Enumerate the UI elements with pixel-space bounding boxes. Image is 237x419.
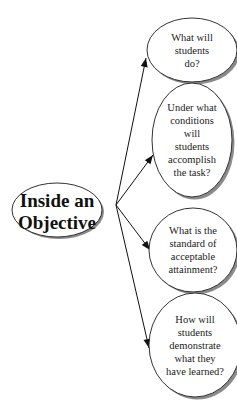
question-node-label-line: standard of xyxy=(170,238,217,249)
question-node-label-line: have learned? xyxy=(166,366,224,377)
question-node-3: What is thestandard ofacceptableattainme… xyxy=(149,208,237,295)
question-node-label-line: Under what xyxy=(167,102,216,113)
central-node-label-line-1: Inside an xyxy=(20,190,95,211)
question-node-label-line: accomplish xyxy=(168,154,217,165)
question-node-2: Under whatconditionswillstudentsaccompli… xyxy=(152,83,235,200)
question-node-label-line: will xyxy=(184,128,200,139)
children-layer: What willstudentsdo?Under whatconditions… xyxy=(147,18,237,400)
question-node-1: What willstudentsdo? xyxy=(147,18,237,85)
question-node-label-line: students xyxy=(175,141,209,152)
question-node-label-line: What is the xyxy=(169,225,217,236)
arrowhead-icon xyxy=(141,58,148,68)
question-node-label-line: students xyxy=(175,45,209,56)
edge-line-1 xyxy=(116,58,146,205)
question-node-label-line: demonstrate xyxy=(169,340,221,351)
question-node-4: How willstudentsdemonstratewhat theyhave… xyxy=(149,293,237,400)
central-node-label-line-2: Objective xyxy=(18,212,96,233)
question-node-label-line: How will xyxy=(175,314,214,325)
question-node-label-line: what they xyxy=(174,353,216,364)
question-node-ellipse xyxy=(149,208,237,292)
question-node-label-line: the task? xyxy=(173,167,210,178)
question-node-label-line: students xyxy=(178,327,212,338)
central-node: Inside an Objective xyxy=(12,183,104,239)
question-node-label-line: acceptable xyxy=(171,251,216,262)
question-node-label-line: conditions xyxy=(170,115,214,126)
question-node-ellipse xyxy=(152,83,232,197)
question-node-label-line: attainment? xyxy=(169,264,218,275)
objective-diagram: Inside an Objective What willstudentsdo?… xyxy=(0,0,237,419)
edges-layer xyxy=(116,58,153,348)
question-node-label-line: What will xyxy=(171,32,213,43)
question-node-label-line: do? xyxy=(184,58,200,69)
arrowhead-icon xyxy=(145,155,153,164)
